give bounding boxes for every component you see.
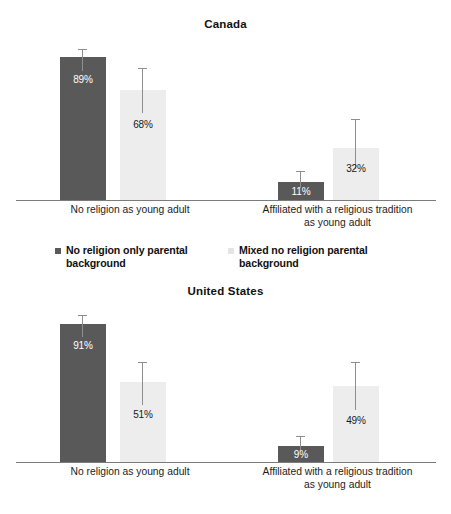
plot-area-canada: 89% 68% 11% 32% xyxy=(0,40,451,200)
bar-value-label: 51% xyxy=(120,409,166,420)
bar-value-label: 11% xyxy=(278,186,324,197)
plot-area-united-states: 91% 51% 9% 49% xyxy=(0,307,451,462)
x-tick-label-line: No religion as young adult xyxy=(30,466,230,479)
x-tick-label-line: as young adult xyxy=(230,479,445,492)
error-bar-cap-top xyxy=(138,68,147,69)
error-bar-line xyxy=(82,315,83,337)
bar-canada-g1-light: 32% xyxy=(333,148,379,200)
bar-canada-g0-light: 68% xyxy=(120,90,166,200)
error-bar-cap-top xyxy=(78,49,87,50)
error-bar-line xyxy=(82,49,83,71)
bar-value-label: 32% xyxy=(333,163,379,174)
x-tick-label-line: as young adult xyxy=(230,217,445,230)
bar-rect xyxy=(120,90,166,200)
x-axis-line-canada xyxy=(16,200,436,201)
panel-title-canada: Canada xyxy=(0,18,451,30)
error-bar-line xyxy=(355,119,356,169)
error-bar-line xyxy=(355,362,356,410)
error-bar-cap-top xyxy=(296,171,305,172)
bar-rect xyxy=(120,382,166,462)
panel-united-states: United States 91% 51% 9% 49% xyxy=(0,285,451,514)
error-bar-cap-top xyxy=(78,315,87,316)
error-bar-cap-top xyxy=(138,362,147,363)
x-tick-label-canada-0: No religion as young adult xyxy=(30,204,230,217)
bar-value-label: 68% xyxy=(120,119,166,130)
bar-value-label: 89% xyxy=(60,74,106,85)
bar-us-g1-dark: 9% xyxy=(278,446,324,462)
error-bar-line xyxy=(142,68,143,113)
legend-item-mixed-no-religion[interactable]: Mixed no religion parental background xyxy=(228,244,408,269)
x-tick-label-line: Affiliated with a religious tradition xyxy=(230,204,445,217)
bar-rect xyxy=(333,148,379,200)
legend-swatch-icon-light xyxy=(228,248,234,254)
panel-title-united-states: United States xyxy=(0,285,451,297)
error-bar-cap-top xyxy=(351,362,360,363)
error-bar-line xyxy=(142,362,143,405)
bar-value-label: 91% xyxy=(60,340,106,351)
x-tick-label-us-0: No religion as young adult xyxy=(30,466,230,479)
bar-value-label: 49% xyxy=(333,415,379,426)
panel-canada: Canada 89% 68% 11% 32% xyxy=(0,0,451,240)
legend-label: No religion only parental background xyxy=(66,244,220,269)
chart-legend: No religion only parental background Mix… xyxy=(0,240,451,285)
bar-us-g0-light: 51% xyxy=(120,382,166,462)
x-tick-label-line: No religion as young adult xyxy=(30,204,230,217)
legend-item-no-religion-only[interactable]: No religion only parental background xyxy=(55,244,220,269)
bar-us-g0-dark: 91% xyxy=(60,324,106,462)
x-tick-label-line: Affiliated with a religious tradition xyxy=(230,466,445,479)
bar-canada-g0-dark: 89% xyxy=(60,57,106,200)
x-tick-label-us-1: Affiliated with a religious tradition as… xyxy=(230,466,445,491)
bar-us-g1-light: 49% xyxy=(333,386,379,462)
error-bar-cap-top xyxy=(351,119,360,120)
bar-value-label: 9% xyxy=(278,449,324,460)
legend-swatch-icon-dark xyxy=(55,248,61,254)
error-bar-cap-top xyxy=(296,436,305,437)
bar-canada-g1-dark: 11% xyxy=(278,182,324,200)
x-axis-line-united-states xyxy=(16,462,436,463)
x-tick-label-canada-1: Affiliated with a religious tradition as… xyxy=(230,204,445,229)
legend-label: Mixed no religion parental background xyxy=(239,244,408,269)
